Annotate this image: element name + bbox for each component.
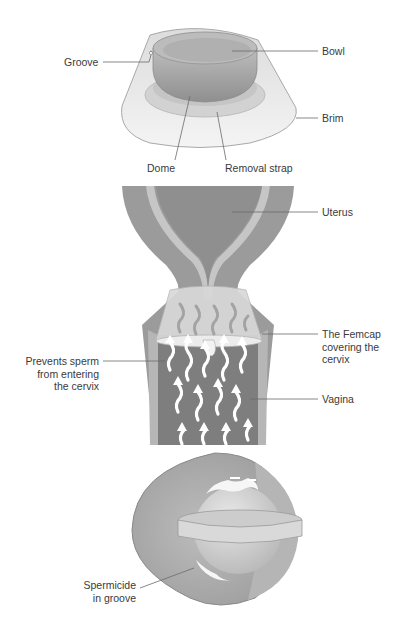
label-removal-strap: Removal strap (225, 162, 293, 175)
femcap-device-drawing (122, 29, 297, 148)
label-uterus: Uterus (322, 206, 353, 219)
diagram-artwork (0, 0, 401, 621)
label-groove: Groove (64, 56, 98, 69)
label-femcap: The Femcap covering the cervix (322, 328, 381, 366)
label-dome: Dome (147, 162, 175, 175)
label-brim: Brim (322, 112, 344, 125)
label-spermicide: Spermicide in groove (83, 579, 136, 604)
label-bowl: Bowl (322, 45, 345, 58)
label-vagina: Vagina (322, 393, 354, 406)
femcap-spermicide-drawing (132, 453, 302, 605)
femcap-in-place-drawing (122, 186, 294, 445)
label-prevents-sperm: Prevents sperm from entering the cervix (25, 355, 99, 393)
